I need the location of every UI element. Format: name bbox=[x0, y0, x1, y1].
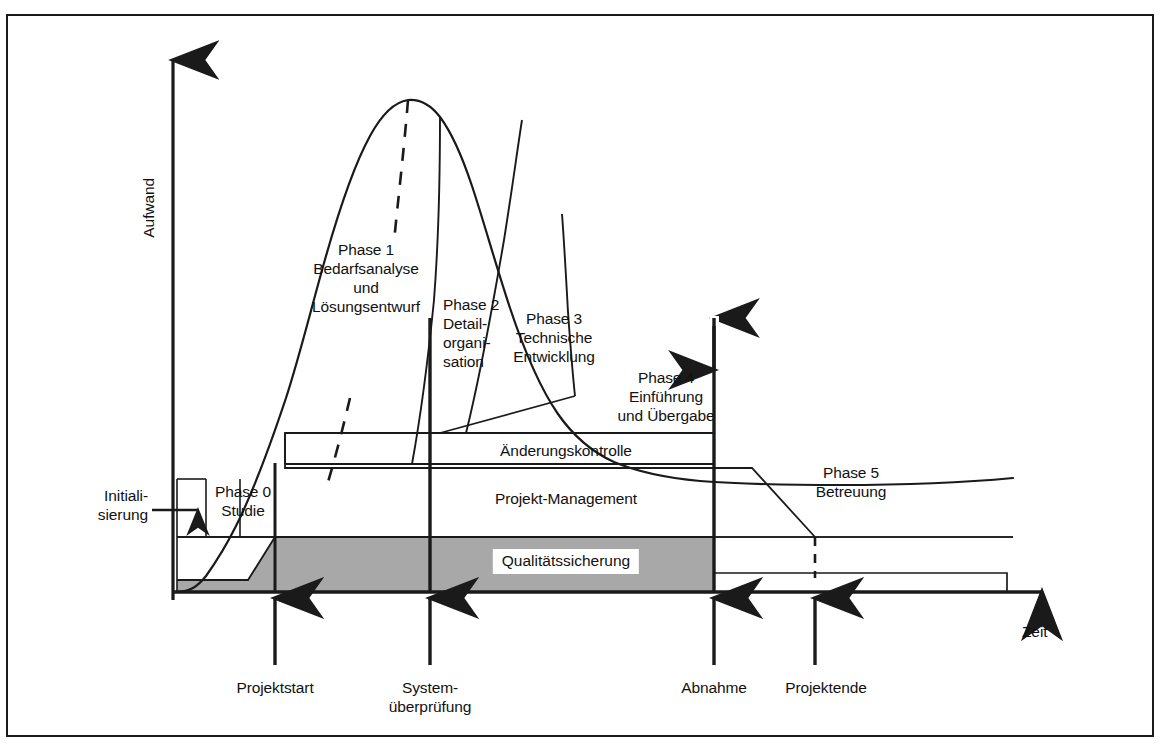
abnahme-down-arrow bbox=[710, 316, 719, 370]
milestone-projektstart-label: Projektstart bbox=[236, 679, 313, 698]
y-axis-label: Aufwand bbox=[140, 178, 159, 238]
diagram-graphics bbox=[0, 0, 1165, 747]
phase5-tail-bar bbox=[714, 573, 1007, 592]
phase1-label: Phase 1BedarfsanalyseundLösungsentwurf bbox=[312, 241, 420, 317]
phase4-label: Phase 4Einführungund Übergabe bbox=[617, 369, 714, 426]
qualitaetssicherung-label: Qualitätssicherung bbox=[493, 549, 639, 574]
milestone-systemueberpruefung-label: System-überprüfung bbox=[389, 679, 472, 717]
milestone-abnahme-label: Abnahme bbox=[681, 679, 747, 698]
x-axis-label: Zeit bbox=[1022, 623, 1047, 642]
milestone-arrows bbox=[275, 598, 815, 665]
effort-curve bbox=[177, 100, 1013, 592]
axes bbox=[173, 60, 1042, 600]
diagram-canvas: Aufwand Zeit InitialisierungInitiali-sie… bbox=[0, 0, 1165, 747]
aenderungskontrolle-label: Änderungskontrolle bbox=[500, 442, 632, 461]
projekt-management-label: Projekt-Management bbox=[495, 490, 637, 509]
milestone-projektende-label: Projektende bbox=[785, 679, 867, 698]
phase0-label: Phase 0Studie bbox=[215, 483, 271, 521]
phase5-label: Phase 5Betreuung bbox=[816, 464, 887, 502]
phase2-label: Phase 2Detail-organi-sation bbox=[443, 296, 499, 372]
initialisierung-label: InitialisierungInitiali-sierung bbox=[98, 487, 148, 525]
phase3-label: Phase 3TechnischeEntwicklung bbox=[513, 310, 595, 367]
